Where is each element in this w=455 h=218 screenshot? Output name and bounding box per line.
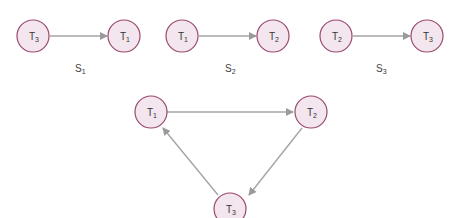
node-t3: T3 bbox=[411, 20, 443, 52]
node-t3: T3 bbox=[214, 193, 246, 218]
schedule-label-s3: S3 bbox=[376, 63, 387, 75]
node-t1: T1 bbox=[166, 20, 198, 52]
node-t1: T1 bbox=[108, 20, 140, 52]
edge-t2-to-t3 bbox=[249, 128, 302, 195]
edge-t3-to-t1 bbox=[163, 128, 218, 195]
schedule-label-s1: S1 bbox=[75, 63, 86, 75]
node-t2: T2 bbox=[320, 20, 352, 52]
node-t3: T3 bbox=[17, 20, 49, 52]
node-t2: T2 bbox=[295, 96, 327, 128]
node-t2: T2 bbox=[257, 20, 289, 52]
schedule-s2-graph: T1 T2 S2 bbox=[166, 20, 289, 75]
cycle-graph: T1 T2 T3 bbox=[135, 96, 327, 218]
schedule-s3-graph: T2 T3 S3 bbox=[320, 20, 443, 75]
node-t1: T1 bbox=[135, 96, 167, 128]
precedence-graph-diagram: T3 T1 S1 T1 T2 S2 T2 T3 S3 bbox=[0, 0, 455, 218]
schedule-label-s2: S2 bbox=[225, 63, 236, 75]
schedule-s1-graph: T3 T1 S1 bbox=[17, 20, 140, 75]
